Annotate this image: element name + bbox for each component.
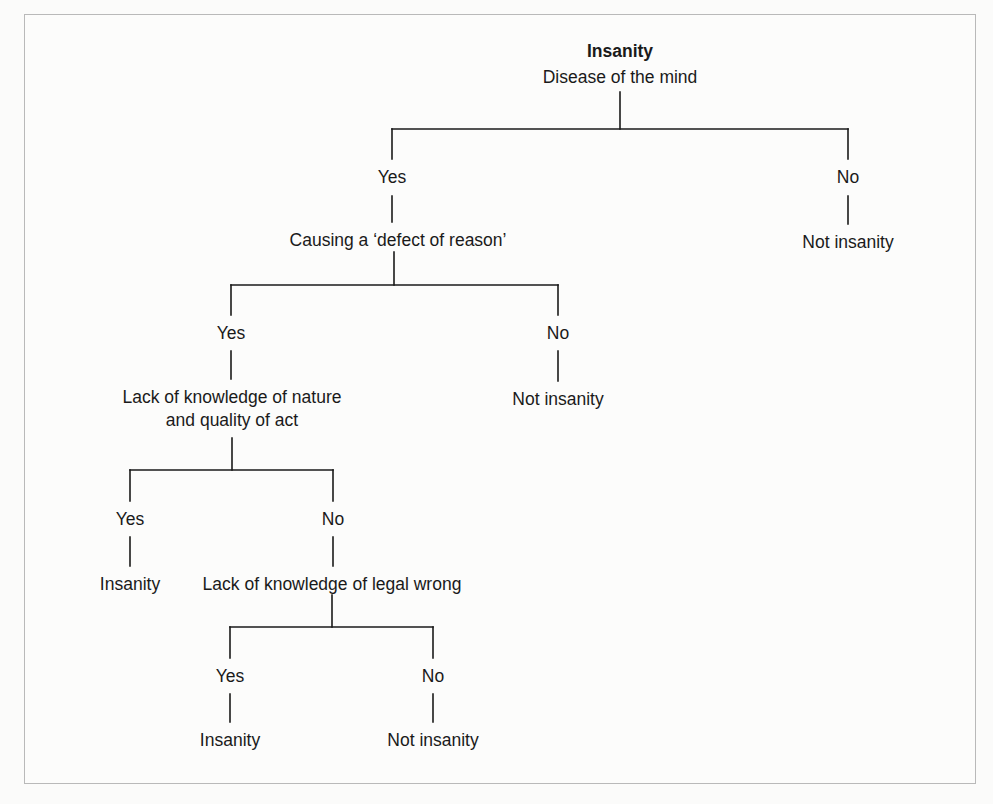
edge-label-level2-no: No [547,323,569,343]
node-outcome-not-insanity-2: Not insanity [512,388,603,411]
node-outcome-not-insanity-3: Not insanity [387,729,478,752]
edge-label-level4-no: No [422,666,444,686]
node-question-nature-and-quality-line2: and quality of act [166,410,298,430]
node-question-defect-of-reason: Causing a ‘defect of reason’ [290,229,507,252]
node-outcome-insanity-1: Insanity [100,573,160,596]
figure-page: Insanity Disease of the mind Yes No Caus… [0,0,993,804]
edge-label-level4-yes: Yes [216,666,245,686]
edge-label-level1-no: No [837,167,859,187]
edge-label-level2-yes: Yes [217,323,246,343]
edge-label-level1-yes: Yes [378,167,407,187]
node-outcome-not-insanity-1: Not insanity [802,231,893,254]
node-question-nature-and-quality: Lack of knowledge of nature and quality … [82,386,382,432]
node-outcome-insanity-2: Insanity [200,729,260,752]
edge-label-level3-no: No [322,509,344,529]
edge-label-level3-yes: Yes [116,509,145,529]
node-root-title: Insanity [587,40,653,63]
node-root-question: Disease of the mind [543,66,698,89]
node-question-legal-wrong: Lack of knowledge of legal wrong [203,573,462,596]
node-question-nature-and-quality-line1: Lack of knowledge of nature [123,387,342,407]
